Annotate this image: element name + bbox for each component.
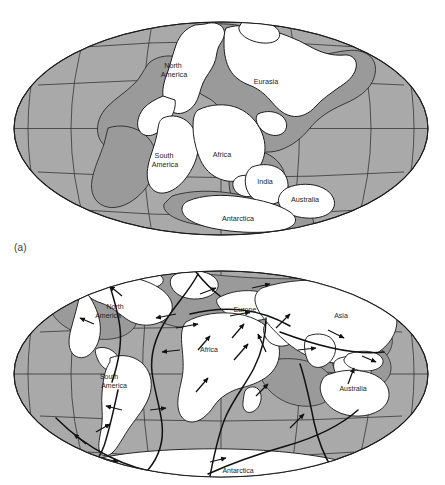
plate-tectonics-figure: North America Eurasia South America Afri… [0, 0, 445, 485]
label-australia-b: Australia [339, 385, 366, 392]
label-eurasia-a: Eurasia [254, 77, 278, 86]
label-antarctica-b: Antarctica [222, 467, 253, 474]
label-australia-a: Australia [291, 195, 319, 204]
panel-b-svg: North America Europe Asia Africa South A… [0, 266, 445, 485]
panel-a-svg: North America Eurasia South America Afri… [0, 0, 445, 245]
label-north-america-a: North America [161, 61, 187, 79]
label-antarctica-a: Antarctica [222, 214, 254, 223]
panel-a-caption: (a) [14, 242, 27, 253]
panel-a-map: North America Eurasia South America Afri… [0, 0, 445, 245]
label-africa-a: Africa [213, 150, 231, 159]
label-south-america-a: South America [152, 151, 178, 169]
label-europe-b: Europe [234, 306, 257, 314]
label-india-a: India [257, 177, 273, 186]
panel-b-map: North America Europe Asia Africa South A… [0, 266, 445, 485]
label-asia-b: Asia [334, 312, 348, 319]
label-africa-b: Africa [200, 346, 218, 353]
